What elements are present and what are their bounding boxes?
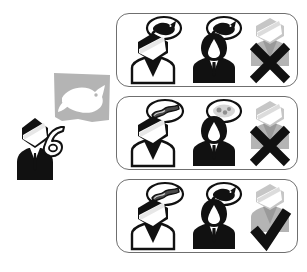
cross-icon — [247, 41, 293, 85]
cross-icon — [247, 124, 293, 168]
verdict-slot — [244, 14, 296, 86]
verdict-slot — [244, 180, 296, 252]
scenario-panel-3[interactable] — [116, 179, 298, 253]
scenario-panel-1[interactable] — [116, 13, 298, 87]
verdict-mark — [247, 207, 293, 251]
tie-shape — [212, 228, 216, 243]
demonstration-scene — [0, 66, 116, 186]
verdict-mark — [247, 41, 293, 85]
listener-figure — [189, 198, 239, 250]
speaker-figure — [128, 32, 178, 84]
verdict-slot — [244, 97, 296, 169]
check-icon — [247, 207, 293, 251]
speaker-slot — [121, 14, 185, 86]
listener-slot — [183, 14, 245, 86]
speaker-slot — [121, 97, 185, 169]
listener-slot — [183, 180, 245, 252]
listener-slot — [183, 97, 245, 169]
speaker-slot — [121, 180, 185, 252]
diagram-canvas — [0, 0, 307, 272]
pointing-person — [14, 112, 66, 182]
verdict-mark — [247, 124, 293, 168]
speaker-figure — [128, 115, 178, 167]
tie-shape — [212, 62, 216, 77]
speaker-figure — [128, 198, 178, 250]
listener-figure — [189, 115, 239, 167]
listener-figure — [189, 32, 239, 84]
scenario-panel-2[interactable] — [116, 96, 298, 170]
tie-shape — [212, 145, 216, 160]
